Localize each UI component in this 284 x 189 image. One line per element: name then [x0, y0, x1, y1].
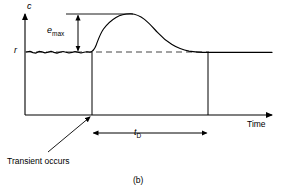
- duration-label: tD: [134, 128, 141, 139]
- transient-leader-line: [48, 117, 90, 152]
- x-axis-label: Time: [247, 120, 266, 129]
- overshoot-label-subscript: max: [52, 30, 64, 37]
- duration-label-subscript: D: [137, 132, 142, 139]
- figure-caption: (b): [133, 176, 143, 185]
- reference-level-label: r: [14, 46, 17, 55]
- overshoot-label: emax: [47, 26, 64, 37]
- transient-note-label: Transient occurs: [7, 157, 70, 166]
- y-axis-label: c: [27, 2, 32, 11]
- figure-container: c r emax tD Time Transient occurs (b): [0, 0, 284, 189]
